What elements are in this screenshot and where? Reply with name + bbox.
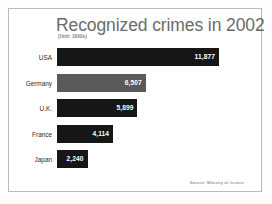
chart-title: Recognized crimes in 2002 [56, 17, 265, 35]
bar-chart-plot: USA11,877Germany6,507U.K.5,899France4,11… [0, 46, 272, 176]
source-note: Source: Ministry of Justice [190, 181, 244, 185]
chart-bar: 4,114 [57, 125, 113, 143]
chart-bar-row: USA11,877 [0, 48, 272, 68]
bar-category-label: U.K. [0, 106, 52, 112]
chart-subtitle: (Unit: 1000s) [58, 35, 87, 40]
bar-category-label: USA [0, 55, 52, 61]
bar-value-label: 2,240 [67, 156, 84, 163]
bar-value-label: 5,899 [116, 105, 133, 112]
chart-bar: 2,240 [57, 150, 88, 168]
bar-value-label: 6,507 [125, 79, 142, 86]
bar-value-label: 11,877 [195, 54, 215, 61]
chart-bar: 11,877 [57, 48, 219, 66]
chart-bar: 5,899 [57, 99, 137, 117]
bar-category-label: Japan [0, 157, 52, 163]
chart-bar-row: Japan2,240 [0, 150, 272, 170]
bar-category-label: Germany [0, 80, 52, 86]
chart-bar-row: Germany6,507 [0, 74, 272, 94]
chart-bar: 6,507 [57, 74, 146, 92]
chart-bar-row: France4,114 [0, 125, 272, 145]
bar-value-label: 4,114 [92, 130, 109, 137]
slide-canvas: Recognized crimes in 2002 (Unit: 1000s) … [0, 0, 272, 204]
chart-bar-row: U.K.5,899 [0, 99, 272, 119]
bar-category-label: France [0, 131, 52, 137]
